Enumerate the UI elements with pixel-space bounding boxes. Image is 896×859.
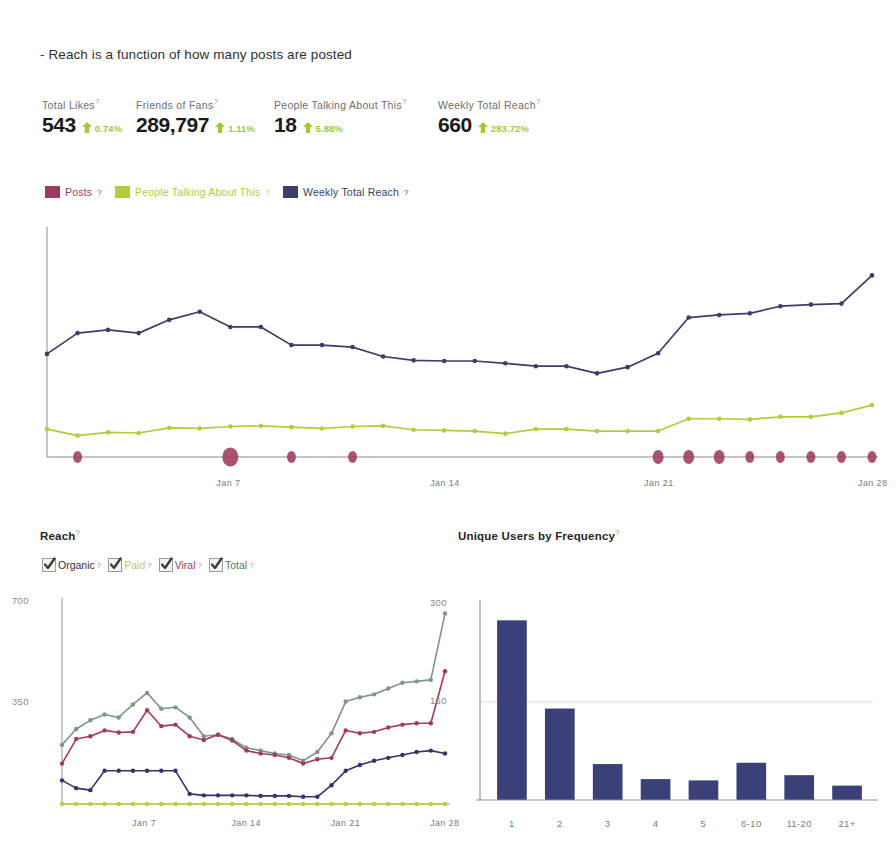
help-icon[interactable]: ? (265, 188, 270, 197)
legend-swatch (283, 186, 298, 198)
arrow-up-icon (478, 122, 488, 133)
x-tick-label: Jan 7 (216, 478, 240, 488)
kpi-weekly-total-reach: Weekly Total Reach?660283.72% (438, 96, 541, 137)
help-icon[interactable]: ? (97, 561, 101, 570)
x-tick-label: 1 (496, 818, 528, 829)
x-tick-label: 6-10 (735, 818, 767, 829)
y-tick-label: 350 (12, 696, 29, 707)
frequency-x-axis-labels: 123456-1011-2021+ (458, 818, 883, 832)
kpi-label: Weekly Total Reach? (438, 96, 541, 111)
help-icon[interactable]: ? (147, 561, 151, 570)
kpi-delta: 0.74% (95, 123, 122, 134)
checkbox-label: Paid (124, 559, 145, 571)
overview-x-axis-labels: Jan 7Jan 14Jan 21Jan 28 (40, 478, 890, 492)
help-icon[interactable]: ? (536, 97, 541, 106)
checkbox-box[interactable] (108, 558, 122, 572)
frequency-section-title: Unique Users by Frequency? (458, 528, 620, 542)
help-icon[interactable]: ? (198, 561, 202, 570)
x-tick-label: 21+ (831, 818, 863, 829)
kpi-label: Total Likes? (42, 96, 122, 111)
checkbox-label: Organic (58, 559, 95, 571)
help-icon[interactable]: ? (249, 561, 253, 570)
help-icon[interactable]: ? (213, 97, 218, 106)
kpi-value: 543 (42, 113, 76, 137)
x-tick-label: Jan 21 (331, 818, 360, 828)
help-icon[interactable]: ? (76, 528, 81, 537)
y-tick-label: 150 (430, 695, 447, 706)
reach-x-axis-labels: Jan 7Jan 14Jan 21Jan 28 (40, 818, 460, 832)
arrow-up-icon (303, 122, 313, 133)
kpi-delta: 1.11% (228, 123, 255, 134)
x-tick-label: 5 (687, 818, 719, 829)
help-icon[interactable]: ? (402, 97, 407, 106)
x-tick-label: 3 (592, 818, 624, 829)
kpi-value: 289,797 (136, 113, 209, 137)
legend-label: Weekly Total Reach (303, 186, 399, 198)
x-tick-label: Jan 21 (644, 478, 673, 488)
y-tick-label: 300 (430, 597, 447, 608)
kpi-total-likes: Total Likes?5430.74% (42, 96, 122, 137)
kpi-delta: 283.72% (491, 123, 529, 134)
help-icon[interactable]: ? (97, 188, 102, 197)
analytics-page: - Reach is a function of how many posts … (0, 0, 896, 859)
checkbox-box[interactable] (209, 558, 223, 572)
checkmark-icon (209, 556, 224, 572)
overview-chart (40, 222, 880, 472)
kpi-friends-of-fans: Friends of Fans?289,7971.11% (136, 96, 255, 137)
kpi-value-row: 5430.74% (42, 113, 122, 137)
kpi-strip: Total Likes?5430.74%Friends of Fans?289,… (42, 96, 662, 144)
legend-swatch (45, 186, 60, 198)
help-icon[interactable]: ? (615, 528, 620, 537)
x-tick-label: 11-20 (783, 818, 815, 829)
x-tick-label: 2 (544, 818, 576, 829)
x-tick-label: Jan 28 (858, 478, 887, 488)
legend-label: People Talking About This (135, 186, 260, 198)
chart-legend: Posts?People Talking About This?Weekly T… (45, 184, 409, 200)
checkmark-icon (42, 556, 57, 572)
checkmark-icon (159, 556, 174, 572)
help-icon[interactable]: ? (95, 97, 100, 106)
reach-title-text: Reach (40, 530, 76, 542)
kpi-label-text: Total Likes (42, 99, 95, 111)
kpi-delta: 5.88% (316, 123, 343, 134)
kpi-value: 18 (274, 113, 297, 137)
kpi-value: 660 (438, 113, 472, 137)
checkbox-organic[interactable]: Organic? (42, 558, 101, 572)
frequency-title-text: Unique Users by Frequency (458, 530, 615, 542)
legend-item-people-talking-about-this[interactable]: People Talking About This? (115, 186, 270, 198)
legend-label: Posts (65, 186, 92, 198)
kpi-label: People Talking About This? (274, 96, 407, 111)
x-tick-label: Jan 14 (430, 478, 459, 488)
reach-section-title: Reach? (40, 528, 80, 542)
x-tick-label: 4 (640, 818, 672, 829)
kpi-label-text: People Talking About This (274, 99, 402, 111)
x-tick-label: Jan 28 (430, 818, 459, 828)
kpi-value-row: 289,7971.11% (136, 113, 255, 137)
kpi-label: Friends of Fans? (136, 96, 255, 111)
x-tick-label: Jan 7 (132, 818, 156, 828)
kpi-value-row: 185.88% (274, 113, 407, 137)
note-text: - Reach is a function of how many posts … (40, 47, 352, 62)
kpi-value-row: 660283.72% (438, 113, 541, 137)
checkbox-box[interactable] (159, 558, 173, 572)
checkbox-label: Viral (175, 559, 196, 571)
checkbox-total[interactable]: Total? (209, 558, 254, 572)
reach-chart: 700350 (40, 592, 450, 814)
reach-filter-checkboxes: Organic?Paid?Viral?Total? (42, 558, 254, 572)
help-icon[interactable]: ? (404, 188, 409, 197)
y-tick-label: 700 (12, 595, 29, 606)
frequency-bar-chart: 300150 (458, 592, 878, 814)
kpi-label-text: Friends of Fans (136, 99, 213, 111)
arrow-up-icon (82, 122, 92, 133)
kpi-label-text: Weekly Total Reach (438, 99, 536, 111)
checkbox-viral[interactable]: Viral? (159, 558, 202, 572)
arrow-up-icon (215, 122, 225, 133)
legend-item-weekly-total-reach[interactable]: Weekly Total Reach? (283, 186, 409, 198)
legend-item-posts[interactable]: Posts? (45, 186, 102, 198)
checkbox-paid[interactable]: Paid? (108, 558, 151, 572)
kpi-people-talking-about-this: People Talking About This?185.88% (274, 96, 407, 137)
checkbox-label: Total (225, 559, 247, 571)
legend-swatch (115, 186, 130, 198)
x-tick-label: Jan 14 (231, 818, 260, 828)
checkbox-box[interactable] (42, 558, 56, 572)
